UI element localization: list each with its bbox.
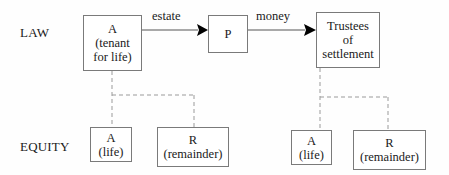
node-title: A [108,22,117,36]
trustees-of-settlement-node: Trustees of settlement [316,12,380,68]
node-subtitle: for life) [93,50,132,64]
node-subtitle: of [343,33,353,47]
tenant-for-life-node: A (tenant for life) [83,15,142,71]
node-title: Trustees [327,19,369,33]
node-subtitle: (tenant [95,36,130,50]
right-remainder-node: R (remainder) [353,130,426,170]
node-subtitle: (life) [299,148,324,162]
left-equity-split [112,71,194,127]
node-subtitle: (life) [99,145,124,159]
left-life-interest-node: A (life) [90,127,132,162]
node-title: A [106,131,115,145]
money-edge-label: money [256,9,290,24]
estate-arrowhead-icon [197,24,208,36]
right-life-interest-node: A (life) [291,130,332,165]
node-title: R [385,136,393,150]
node-title: A [307,134,316,148]
estate-edge-label: estate [152,9,180,24]
node-subtitle: settlement [322,47,373,61]
node-title: P [225,27,232,41]
trust-diagram: LAW EQUITY estate money A (tenant for li… [0,0,449,175]
right-equity-split [320,68,388,130]
node-subtitle: (remainder) [360,150,419,164]
left-remainder-node: R (remainder) [157,127,229,167]
node-title: R [189,133,197,147]
money-arrowhead-icon [304,24,316,36]
equity-row-label: EQUITY [20,139,70,155]
purchaser-node: P [208,15,248,53]
law-row-label: LAW [20,25,49,41]
node-subtitle: (remainder) [164,147,223,161]
